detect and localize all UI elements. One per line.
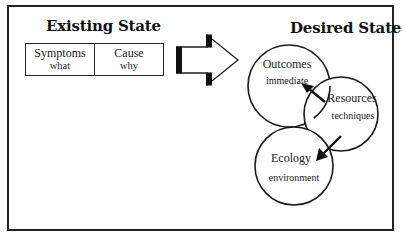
ecology-circle [255, 127, 333, 205]
desired-state-title: Desired State [290, 19, 401, 37]
ecology-label: Ecology [271, 151, 311, 166]
outcomes-label: Outcomes [263, 57, 312, 72]
outcomes-sublabel: immediate [266, 75, 308, 86]
ecology-sublabel: environment [269, 172, 320, 183]
block-arrow-right-icon [176, 35, 238, 86]
resources-sublabel: techniques [332, 110, 375, 121]
resources-label: Resources [327, 91, 376, 106]
